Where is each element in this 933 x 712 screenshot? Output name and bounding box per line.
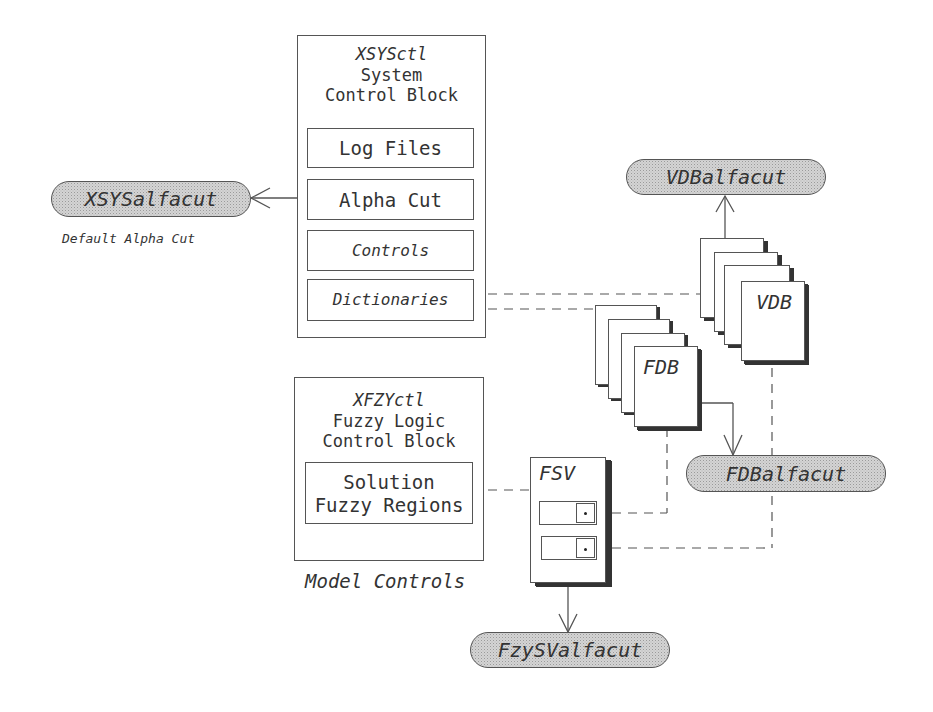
- fdb-card[interactable]: FDB: [634, 346, 698, 427]
- xsys-alfacut-label: XSYSalfacut: [85, 187, 217, 211]
- system-block-name: XSYSctl: [298, 46, 485, 63]
- vdb-label: VDB: [756, 290, 792, 314]
- fsv-slot-2[interactable]: [541, 536, 597, 560]
- fdb-label: FDB: [643, 355, 679, 379]
- fdb-alfacut-label: FDBalfacut: [726, 462, 846, 486]
- vdb-alfacut-label: VDBalfacut: [666, 165, 786, 189]
- system-control-block: XSYSctl System Control Block Log Files A…: [297, 35, 486, 338]
- fsv-label: FSV: [539, 461, 575, 485]
- fsv-slot-1-pointer: [576, 503, 595, 523]
- field-log-files-label: Log Files: [308, 139, 473, 158]
- field-log-files[interactable]: Log Files: [307, 128, 474, 168]
- fuzzy-block-line2: Control Block: [295, 433, 483, 450]
- field-controls-label: Controls: [308, 243, 473, 259]
- solution-label: Solution: [306, 473, 472, 492]
- fsv-card[interactable]: FSV: [530, 457, 606, 583]
- fuzzy-regions-label: Fuzzy Regions: [306, 496, 472, 515]
- xsys-alfacut-node[interactable]: XSYSalfacut: [51, 181, 251, 217]
- pointer-dot-icon: [584, 512, 587, 515]
- fsv-slot-2-pointer: [576, 538, 595, 558]
- fdb-alfacut-node[interactable]: FDBalfacut: [686, 455, 886, 492]
- fuzzy-control-block: XFZYctl Fuzzy Logic Control Block Soluti…: [294, 377, 484, 561]
- field-solution-fuzzy-regions[interactable]: Solution Fuzzy Regions: [305, 462, 473, 524]
- field-alpha-cut[interactable]: Alpha Cut: [307, 179, 474, 220]
- field-dictionaries[interactable]: Dictionaries: [307, 279, 474, 321]
- system-block-line2: Control Block: [298, 87, 485, 104]
- field-alpha-cut-label: Alpha Cut: [308, 191, 473, 210]
- field-controls[interactable]: Controls: [307, 230, 474, 271]
- field-dictionaries-label: Dictionaries: [308, 292, 473, 308]
- fuzzy-block-name: XFZYctl: [295, 392, 483, 409]
- system-block-line1: System: [298, 67, 485, 84]
- fuzzy-block-line1: Fuzzy Logic: [295, 413, 483, 430]
- fsv-slot-1[interactable]: [539, 501, 597, 525]
- vdb-alfacut-node[interactable]: VDBalfacut: [626, 159, 826, 195]
- vdb-card[interactable]: VDB: [741, 281, 805, 361]
- model-controls-caption: Model Controls: [305, 572, 465, 591]
- default-alpha-cut-caption: Default Alpha Cut: [62, 232, 195, 245]
- fzysv-alfacut-label: FzySValfacut: [498, 638, 643, 662]
- pointer-dot-icon: [584, 548, 587, 551]
- fzysv-alfacut-node[interactable]: FzySValfacut: [470, 632, 670, 668]
